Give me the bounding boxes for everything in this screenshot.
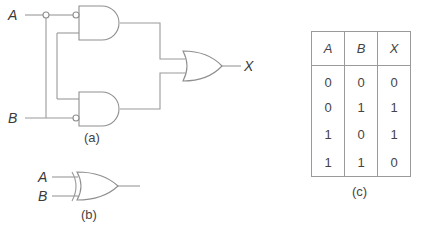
cell: 0 — [345, 66, 378, 95]
table-row: 1 1 0 — [312, 148, 411, 177]
truth-table: A B X 0 0 0 0 1 1 1 0 1 1 1 0 — [311, 31, 411, 177]
xor-input-label-b: B — [38, 189, 47, 203]
header-x: X — [378, 32, 411, 66]
cell: 1 — [345, 148, 378, 177]
output-label-x: X — [244, 59, 253, 73]
table-row: 0 1 1 — [312, 94, 411, 121]
xor-gate — [52, 172, 140, 201]
cell: 0 — [378, 66, 411, 95]
xor-input-label-a: A — [38, 170, 47, 184]
cell: 1 — [378, 94, 411, 121]
cell: 1 — [378, 121, 411, 148]
cell: 0 — [378, 148, 411, 177]
table-header-row: A B X — [312, 32, 411, 66]
inversion-bubble-icon — [73, 12, 79, 18]
cell: 0 — [312, 66, 345, 95]
input-label-b: B — [8, 111, 17, 125]
cell: 1 — [312, 121, 345, 148]
cell: 0 — [345, 121, 378, 148]
or-gate — [183, 51, 222, 81]
header-a: A — [312, 32, 345, 66]
caption-c: (c) — [352, 185, 367, 198]
and-gate-top — [73, 6, 119, 40]
table-row: 0 0 0 — [312, 66, 411, 95]
caption-b: (b) — [81, 208, 97, 221]
header-b: B — [345, 32, 378, 66]
junction-dot-icon — [43, 12, 49, 18]
and-gate-bottom — [73, 92, 119, 126]
inversion-bubble-icon — [73, 115, 79, 121]
input-label-a: A — [8, 8, 17, 22]
cell: 1 — [312, 148, 345, 177]
caption-a: (a) — [84, 131, 100, 144]
cell: 1 — [345, 94, 378, 121]
cell: 0 — [312, 94, 345, 121]
table-row: 1 0 1 — [312, 121, 411, 148]
